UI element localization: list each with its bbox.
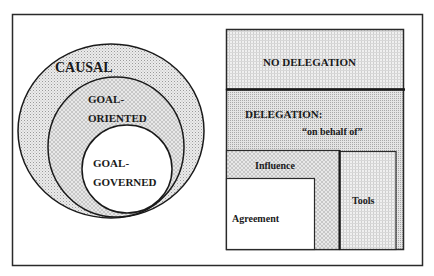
diagram-canvas: CAUSAL GOAL- ORIENTED GOAL- GOVERNED NO … — [0, 0, 434, 276]
goal-governed-circle — [82, 125, 172, 213]
goal-oriented-label-1: GOAL- — [88, 93, 124, 105]
influence-label: Influence — [255, 160, 296, 171]
agreement-label: Agreement — [232, 213, 280, 224]
nested-circles: CAUSAL GOAL- ORIENTED GOAL- GOVERNED — [18, 44, 204, 218]
no-delegation-label: NO DELEGATION — [263, 56, 356, 68]
delegation-sub-label: “on behalf of” — [302, 126, 363, 137]
goal-governed-label-2: GOVERNED — [93, 176, 157, 188]
tools-label: Tools — [352, 195, 375, 206]
goal-governed-label-1: GOAL- — [93, 157, 129, 169]
causal-label: CAUSAL — [55, 60, 113, 75]
delegation-label: DELEGATION: — [245, 108, 322, 120]
goal-oriented-label-2: ORIENTED — [88, 112, 147, 124]
delegation-boxes: NO DELEGATION DELEGATION: “on behalf of”… — [226, 30, 405, 251]
